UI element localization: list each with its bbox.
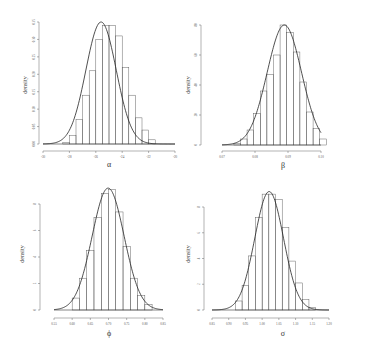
histogram-bars xyxy=(234,25,326,145)
histogram-bar xyxy=(235,301,242,310)
histogram-bar xyxy=(267,75,274,146)
x-tick-label: 1.05 xyxy=(276,322,282,326)
x-tick-label: -24 xyxy=(120,155,125,159)
y-tick-label: 40 xyxy=(194,83,198,87)
x-tick-label: 0.55 xyxy=(51,322,57,326)
y-tick-label: 0 xyxy=(194,144,198,146)
y-tick-label: 0 xyxy=(33,309,37,311)
y-axis-title: density xyxy=(19,245,25,262)
x-tick-label: 0.07 xyxy=(219,155,225,159)
x-axis-title: α xyxy=(107,160,112,169)
histogram-bar xyxy=(87,250,94,310)
x-tick-label: 0.08 xyxy=(252,155,258,159)
x-tick-label: 0.80 xyxy=(142,322,148,326)
x-tick-label: 0.90 xyxy=(226,322,232,326)
x-tick-label: 1.10 xyxy=(293,322,299,326)
histogram-bar xyxy=(72,298,79,310)
y-tick-label: 6 xyxy=(197,232,201,234)
posterior-histograms-figure: density α 0.000.050.100.150.200.250.300.… xyxy=(0,0,367,353)
y-axis-title: density xyxy=(185,76,191,93)
y-tick-label: 4 xyxy=(197,257,201,259)
histogram-bar xyxy=(102,25,109,144)
y-tick-label: 2 xyxy=(197,283,201,285)
histogram-bars xyxy=(235,194,315,310)
histogram-bar xyxy=(129,95,136,144)
y-tick-label: 0.25 xyxy=(32,54,36,60)
panel-alpha: density α 0.000.050.100.150.200.250.300.… xyxy=(22,19,178,169)
x-tick-label: 0.85 xyxy=(160,322,166,326)
x-tick-label: -30 xyxy=(41,155,46,159)
histogram-bar xyxy=(269,194,276,310)
y-tick-label: 20 xyxy=(194,113,198,117)
histogram-bar xyxy=(69,135,76,144)
y-tick-label: 4 xyxy=(33,256,37,258)
y-axis-title: density xyxy=(185,245,191,262)
x-tick-label: 1.15 xyxy=(309,322,315,326)
histogram-bar xyxy=(130,278,137,310)
chart-canvas: density α 0.000.050.100.150.200.250.300.… xyxy=(0,0,367,353)
y-tick-label: 0.35 xyxy=(32,19,36,25)
panel-beta: density β 0204060800.070.080.090.10 xyxy=(185,23,326,170)
histogram-bar xyxy=(280,25,287,145)
x-tick-label: 0.10 xyxy=(318,155,324,159)
x-tick-label: -20 xyxy=(173,155,178,159)
histogram-bar xyxy=(300,82,307,145)
histogram-bar xyxy=(109,189,116,310)
x-axis-title: ϕ xyxy=(107,329,111,338)
y-tick-label: 0.00 xyxy=(32,141,36,147)
y-tick-label: 0.15 xyxy=(32,89,36,95)
y-tick-label: 8 xyxy=(197,206,201,208)
y-tick-label: 0.30 xyxy=(32,36,36,42)
histogram-bar xyxy=(145,305,152,310)
histogram-bar xyxy=(116,36,123,144)
histogram-bar xyxy=(123,246,130,310)
density-curve xyxy=(222,25,321,145)
histogram-bar xyxy=(260,91,267,145)
histogram-bars xyxy=(72,189,152,310)
y-tick-label: 60 xyxy=(194,53,198,57)
x-tick-label: -28 xyxy=(67,155,72,159)
histogram-bar xyxy=(96,39,103,144)
histogram-bar xyxy=(242,286,249,310)
histogram-bar xyxy=(138,295,145,310)
y-tick-label: 80 xyxy=(194,23,198,27)
y-tick-label: 6 xyxy=(33,229,37,231)
histogram-bar xyxy=(76,120,83,144)
x-axis-title: β xyxy=(281,161,285,170)
histogram-bar xyxy=(89,71,96,144)
y-tick-label: 0.20 xyxy=(32,71,36,77)
x-tick-label: 1.20 xyxy=(326,322,332,326)
x-tick-label: 0.95 xyxy=(243,322,249,326)
x-tick-label: 0.70 xyxy=(106,322,112,326)
histogram-bar xyxy=(122,67,129,144)
histogram-bar xyxy=(83,95,90,144)
x-tick-label: 0.60 xyxy=(69,322,75,326)
histogram-bar xyxy=(262,194,269,310)
y-tick-label: 0.05 xyxy=(32,123,36,129)
y-tick-label: 8 xyxy=(33,203,37,205)
histogram-bar xyxy=(320,139,327,145)
histogram-bar xyxy=(94,217,101,310)
histogram-bar xyxy=(273,55,280,145)
histogram-bars xyxy=(63,25,155,144)
x-tick-label: 1.00 xyxy=(259,322,265,326)
histogram-bar xyxy=(313,129,320,146)
histogram-bar xyxy=(287,33,294,146)
density-curve xyxy=(212,192,329,310)
x-tick-label: 0.85 xyxy=(209,322,215,326)
x-tick-label: 0.09 xyxy=(285,155,291,159)
histogram-bar xyxy=(293,52,300,145)
y-tick-label: 2 xyxy=(33,282,37,284)
x-tick-label: 0.75 xyxy=(124,322,130,326)
x-tick-label: -26 xyxy=(94,155,99,159)
x-axis-title: σ xyxy=(281,329,286,338)
panel-sigma: density σ 024680.850.900.951.001.051.101… xyxy=(185,192,332,338)
histogram-bar xyxy=(101,193,108,310)
x-tick-label: 0.65 xyxy=(88,322,94,326)
x-tick-label: -22 xyxy=(146,155,151,159)
histogram-bar xyxy=(282,228,289,310)
y-axis-title: density xyxy=(22,76,28,93)
y-tick-label: 0.10 xyxy=(32,106,36,112)
histogram-bar xyxy=(306,112,313,145)
histogram-bar xyxy=(109,25,116,144)
